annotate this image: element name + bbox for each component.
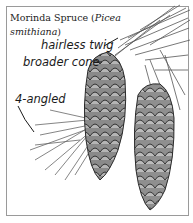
label-broader-cone: broader cone	[23, 55, 100, 69]
figure-title: Morinda Spruce (Piceasmithiana)	[10, 11, 130, 39]
cone-left	[84, 52, 125, 180]
label-hairless-twig: hairless twig	[41, 38, 114, 52]
cone-right	[134, 84, 174, 210]
label-4-angled: 4-angled	[15, 92, 66, 106]
